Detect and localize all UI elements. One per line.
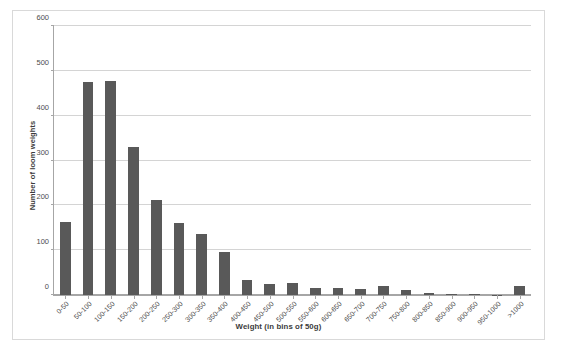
- y-tick-label-400: 400: [36, 102, 49, 111]
- bar[interactable]: [128, 147, 139, 295]
- bar[interactable]: [514, 286, 525, 295]
- bar-slot: [54, 26, 77, 295]
- y-tick-label-500: 500: [36, 57, 49, 66]
- bar[interactable]: [174, 223, 185, 295]
- x-tick-mark: [383, 295, 384, 299]
- bar-slot: [395, 26, 418, 295]
- bar-slot: [190, 26, 213, 295]
- bar-series: [54, 26, 531, 295]
- x-tick-mark: [497, 295, 498, 299]
- bar-slot: [213, 26, 236, 295]
- y-tick-label-300: 300: [36, 147, 49, 156]
- bar[interactable]: [219, 252, 230, 295]
- y-tick-label-100: 100: [36, 237, 49, 246]
- y-axis-title: Number of loom weights: [28, 101, 37, 231]
- bar[interactable]: [287, 283, 298, 295]
- x-tick-mark: [361, 295, 362, 299]
- bar-slot: [258, 26, 281, 295]
- bar[interactable]: [333, 288, 344, 295]
- x-tick-mark: [270, 295, 271, 299]
- plot-area-wrapper: 0100200300400500600 0-5050-100100-150150…: [53, 26, 531, 296]
- x-tick-mark: [429, 295, 430, 299]
- bar-slot: [145, 26, 168, 295]
- bar-slot: [486, 26, 509, 295]
- bar-slot: [327, 26, 350, 295]
- bar[interactable]: [83, 82, 94, 295]
- bar-slot: [372, 26, 395, 295]
- x-tick-label: 0-50: [55, 300, 70, 315]
- bar[interactable]: [105, 81, 116, 295]
- x-tick-mark: [156, 295, 157, 299]
- bar-slot: [122, 26, 145, 295]
- bar[interactable]: [310, 288, 321, 295]
- x-tick-mark: [247, 295, 248, 299]
- bar[interactable]: [264, 284, 275, 295]
- bar-slot: [508, 26, 531, 295]
- bar[interactable]: [60, 222, 71, 295]
- x-tick-mark: [224, 295, 225, 299]
- x-tick-mark: [179, 295, 180, 299]
- bar-slot: [77, 26, 100, 295]
- x-tick-mark: [88, 295, 89, 299]
- bar-slot: [440, 26, 463, 295]
- x-tick-mark: [406, 295, 407, 299]
- bar[interactable]: [151, 200, 162, 295]
- y-tick-label-0: 0: [45, 282, 49, 291]
- x-tick-mark: [315, 295, 316, 299]
- x-tick-mark: [111, 295, 112, 299]
- bar[interactable]: [196, 234, 207, 295]
- y-tick-label-600: 600: [36, 13, 49, 22]
- bar-slot: [349, 26, 372, 295]
- x-tick-mark: [202, 295, 203, 299]
- bar-slot: [236, 26, 259, 295]
- bar-slot: [463, 26, 486, 295]
- bar[interactable]: [242, 280, 253, 295]
- y-tick-label-200: 200: [36, 192, 49, 201]
- x-tick-mark: [338, 295, 339, 299]
- bar-slot: [418, 26, 441, 295]
- x-tick-mark: [65, 295, 66, 299]
- x-tick-label: >1000: [506, 300, 525, 319]
- bar-slot: [99, 26, 122, 295]
- plot-area: 0100200300400500600 0-5050-100100-150150…: [53, 26, 531, 296]
- bar-slot: [168, 26, 191, 295]
- bar-slot: [304, 26, 327, 295]
- bar-slot: [281, 26, 304, 295]
- x-tick-mark: [520, 295, 521, 299]
- x-tick-mark: [474, 295, 475, 299]
- x-axis-title: Weight (in bins of 50g): [13, 322, 544, 331]
- chart-frame: Number of loom weights 01002003004005006…: [12, 10, 545, 340]
- bar[interactable]: [378, 286, 389, 295]
